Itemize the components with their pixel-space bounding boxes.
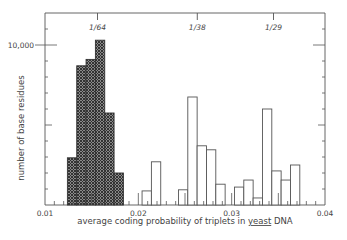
open-bar [188,97,197,205]
open-bar [234,187,243,205]
hatched-bar [105,113,114,205]
open-bar [178,190,187,205]
open-bar [272,171,281,205]
top-marker-label: 1/64 [89,23,106,32]
open-bar [142,191,151,205]
x-tick-label: 0.04 [317,209,334,218]
y-axis-label: number of base residues [16,75,26,181]
x-tick-label: 0.01 [37,209,54,218]
hatched-bar [114,173,123,205]
hatched-bar [95,40,104,205]
top-marker-label: 1/38 [189,23,206,32]
open-bar [290,165,299,205]
x-axis-label: average coding probability of triplets i… [77,216,292,226]
hatched-bar [77,66,86,205]
open-bar [253,198,262,205]
open-bar [197,146,206,205]
open-bar [281,180,290,205]
top-marker-label: 1/29 [265,23,282,32]
hatched-bar [67,158,76,205]
histogram-bars [67,40,299,205]
open-bar [151,162,160,205]
open-bar [262,109,271,205]
hatched-bar [86,59,95,205]
open-bar [244,180,253,205]
open-bar [206,150,215,205]
histogram-chart: 0.010.020.030.0410,0001/641/381/29 avera… [0,0,347,240]
y-tick-label: 10,000 [8,41,34,50]
open-bar [216,184,225,205]
